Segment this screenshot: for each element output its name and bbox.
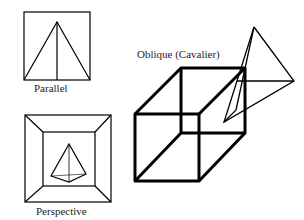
parallel-label: Parallel [34,82,68,94]
perspective-pyramid [51,144,86,182]
projection-diagram [0,0,304,220]
oblique-pyramid [224,27,294,122]
oblique-cube [135,68,245,181]
perspective-label: Perspective [36,205,87,217]
oblique-label: Oblique (Cavalier) [137,48,220,60]
parallel-view [24,12,90,80]
perspective-view [25,115,111,202]
